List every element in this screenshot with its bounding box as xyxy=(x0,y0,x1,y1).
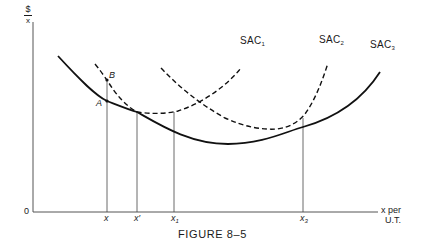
y-axis-label-top: $ xyxy=(24,5,32,14)
tick-label-x-prime: x′ xyxy=(134,214,140,223)
sac2-label-sub: 2 xyxy=(340,40,344,46)
tick-label-x3: x3 xyxy=(300,214,308,224)
origin-label: 0 xyxy=(24,207,29,216)
tick-x-base: x xyxy=(104,213,109,223)
sac2-label-name: SAC xyxy=(319,34,340,45)
sac2-label: SAC2 xyxy=(319,35,344,46)
y-axis-label-bottom: x xyxy=(24,17,32,25)
x-axis-label-line2: U.T. xyxy=(381,215,401,225)
point-a-marker xyxy=(105,99,108,102)
x-axis-label: x per U.T. xyxy=(381,205,401,225)
sac1-curve xyxy=(95,64,241,113)
y-axis-label: $ x xyxy=(24,5,32,25)
sac3-label-sub: 3 xyxy=(391,45,395,51)
point-a-label: A xyxy=(96,99,102,108)
cost-curves-diagram xyxy=(0,0,425,252)
x-axis-label-line1: x per xyxy=(381,205,401,215)
tick-label-x: x xyxy=(104,214,109,223)
sac1-label-sub: 1 xyxy=(261,41,265,47)
figure-title: FIGURE 8–5 xyxy=(0,228,425,240)
sac3-label: SAC3 xyxy=(370,40,395,51)
sac3-label-name: SAC xyxy=(370,39,391,50)
sac1-label: SAC1 xyxy=(240,36,265,47)
point-b-label: B xyxy=(109,71,115,80)
sac1-label-name: SAC xyxy=(240,35,261,46)
tick-label-x1: x1 xyxy=(171,214,179,224)
tick-x-prime-base: x′ xyxy=(134,213,140,223)
tick-x3-sub: 3 xyxy=(305,218,308,224)
tick-x1-sub: 1 xyxy=(176,218,179,224)
